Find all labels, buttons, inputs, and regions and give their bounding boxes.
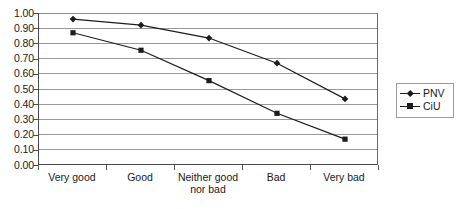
x-axis-tick-mark xyxy=(174,165,175,170)
x-axis-tick-mark xyxy=(378,165,379,170)
plot-area xyxy=(38,13,378,165)
x-axis-tick-label: Very bad xyxy=(310,172,378,184)
series-layer xyxy=(39,13,379,165)
y-axis-tick-label: 0.70 xyxy=(0,53,34,64)
y-axis-tick-label: 0.60 xyxy=(0,68,34,79)
legend-label: CiU xyxy=(420,101,441,112)
legend-item-ciu[interactable]: CiU xyxy=(400,100,449,113)
x-axis-tick-label: Neither good nor bad xyxy=(174,172,242,195)
data-point-pnv xyxy=(274,60,281,67)
y-axis-tick-label: 0.40 xyxy=(0,99,34,110)
data-point-ciu xyxy=(138,48,143,53)
data-point-ciu xyxy=(274,111,279,116)
y-axis-tick-label: 0.00 xyxy=(0,160,34,171)
x-axis-tick-label: Good xyxy=(106,172,174,184)
legend-marker-square-icon xyxy=(400,101,420,112)
x-axis-tick-mark xyxy=(106,165,107,170)
x-axis-tick-label: Bad xyxy=(242,172,310,184)
y-axis-tick-label: 0.20 xyxy=(0,129,34,140)
data-point-pnv xyxy=(138,22,145,29)
chart-container: 1.000.900.800.700.600.500.400.300.200.10… xyxy=(0,0,461,209)
y-axis-tick-label: 0.30 xyxy=(0,114,34,125)
chart-legend: PNVCiU xyxy=(396,83,454,118)
legend-item-pnv[interactable]: PNV xyxy=(400,87,449,100)
x-axis-tick-mark xyxy=(242,165,243,170)
data-point-pnv xyxy=(342,96,349,103)
data-point-pnv xyxy=(70,16,77,23)
series-line-pnv xyxy=(73,19,345,99)
data-point-pnv xyxy=(206,35,213,42)
data-point-ciu xyxy=(342,137,347,142)
x-axis-tick-mark xyxy=(38,165,39,170)
x-axis-tick-mark xyxy=(310,165,311,170)
y-axis-tick-label: 0.50 xyxy=(0,84,34,95)
x-axis-tick-label: Very good xyxy=(38,172,106,184)
data-point-ciu xyxy=(70,30,75,35)
data-point-ciu xyxy=(206,78,211,83)
y-axis-tick-label: 0.10 xyxy=(0,144,34,155)
legend-marker-diamond-icon xyxy=(400,88,420,99)
series-line-ciu xyxy=(73,33,345,139)
y-axis-tick-label: 1.00 xyxy=(0,8,34,19)
y-axis-tick-label: 0.90 xyxy=(0,23,34,34)
y-axis-tick-label: 0.80 xyxy=(0,38,34,49)
legend-label: PNV xyxy=(420,88,445,99)
